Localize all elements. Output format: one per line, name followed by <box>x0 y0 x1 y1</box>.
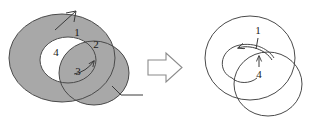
figure-container: 1 2 3 4 1 4 <box>0 0 315 134</box>
pointer-line-1 <box>256 38 258 49</box>
result-label-1: 1 <box>255 24 261 36</box>
right-diagram: 1 4 <box>205 16 302 116</box>
result-circle-large <box>205 16 295 100</box>
result-inner-crescent-lower <box>232 78 257 83</box>
region-label-2: 2 <box>93 38 99 50</box>
result-curved-arrow <box>238 47 272 60</box>
figure-canvas: 1 2 3 4 1 4 <box>0 0 315 134</box>
result-circle-small <box>234 52 302 116</box>
left-diagram: 1 2 3 4 <box>9 11 143 105</box>
result-label-4: 4 <box>256 68 262 80</box>
implies-arrow <box>148 53 182 82</box>
implies-arrow-shape <box>148 53 182 82</box>
region-label-3: 3 <box>75 65 81 77</box>
region-label-1: 1 <box>74 26 80 38</box>
result-inner-crescent <box>222 44 274 78</box>
region-label-4: 4 <box>53 46 59 58</box>
